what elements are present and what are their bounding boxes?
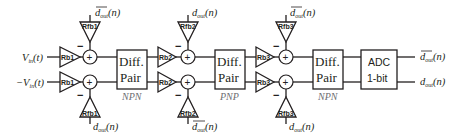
input-top-label: Vin(t) — [22, 52, 44, 64]
feedback-label-rfb3-bottom: Rfb3 — [278, 110, 294, 117]
feedback-signal-1-top: dout(n) — [95, 7, 121, 19]
adc-label-line1: ADC — [368, 56, 391, 68]
gain-label-rb3-bottom: Rb3 — [257, 79, 270, 86]
feedback-signal-2-bottom: dout(n) — [192, 121, 218, 133]
transistor-type-2: PNP — [219, 91, 239, 102]
feedback-label-rfb2-bottom: Rfb2 — [180, 110, 196, 117]
output-bottom-label: dout(n) — [420, 76, 446, 88]
feedback-signal-1-bottom: dout(n) — [93, 121, 119, 133]
minus-sign: − — [175, 40, 181, 52]
gain-label-rb2-bottom: Rb2 — [159, 79, 172, 86]
minus-sign: − — [175, 89, 181, 101]
minus-sign: − — [77, 89, 83, 101]
stage-1: Rb1 Rb1 + − + − Rfb1 dout(n) Rfb1 dout(n… — [60, 7, 158, 133]
diff-pair-1-label-line1: Diff. — [119, 54, 144, 69]
input-bottom-label: −Vin(t) — [16, 77, 45, 89]
stage-3: Rb3 Rb3 + − + − Rfb3 dout(n) Rfb3 dout(n… — [256, 7, 361, 133]
diff-pair-2-label-line1: Diff. — [217, 54, 242, 69]
feedback-label-rfb1-top: Rfb1 — [82, 23, 98, 30]
block-diagram: Vin(t) −Vin(t) Rb1 Rb1 + − + − Rfb1 dout… — [0, 0, 463, 139]
diagram-svg: Vin(t) −Vin(t) Rb1 Rb1 + − + − Rfb1 dout… — [0, 0, 463, 139]
plus-sign: + — [185, 52, 191, 63]
svg-text:dout(n): dout(n) — [420, 76, 446, 88]
diff-pair-2-label-line2: Pair — [218, 70, 240, 85]
feedback-label-rfb1-bottom: Rfb1 — [82, 110, 98, 117]
gain-label-rb2-top: Rb2 — [159, 54, 172, 61]
svg-text:dout(n): dout(n) — [192, 121, 218, 133]
svg-text:dout(n): dout(n) — [93, 121, 119, 133]
minus-sign: − — [273, 40, 279, 52]
plus-sign: + — [283, 52, 289, 63]
gain-label-rb1-bottom: Rb1 — [61, 79, 74, 86]
plus-sign: + — [87, 77, 93, 88]
feedback-label-rfb2-top: Rfb2 — [180, 23, 196, 30]
svg-text:dout(n): dout(n) — [95, 7, 121, 19]
minus-sign: − — [77, 40, 83, 52]
plus-sign: + — [185, 77, 191, 88]
feedback-signal-2-top: dout(n) — [192, 7, 218, 19]
minus-sign: − — [273, 89, 279, 101]
gain-label-rb1-top: Rb1 — [61, 54, 74, 61]
transistor-type-3: NPN — [317, 91, 339, 102]
plus-sign: + — [87, 52, 93, 63]
svg-text:dout(n): dout(n) — [420, 51, 446, 63]
diff-pair-3-label-line1: Diff. — [315, 54, 340, 69]
stage-2: Rb2 Rb2 + − + − Rfb2 dout(n) Rfb2 dout(n… — [158, 7, 256, 133]
diff-pair-3-label-line2: Pair — [316, 70, 338, 85]
adc-label-line2: 1-bit — [367, 72, 388, 84]
svg-text:dout(n): dout(n) — [290, 7, 316, 19]
plus-sign: + — [283, 77, 289, 88]
feedback-label-rfb3-top: Rfb3 — [278, 23, 294, 30]
svg-text:dout(n): dout(n) — [192, 7, 218, 19]
output-top-label: dout(n) — [420, 51, 446, 63]
diff-pair-1-label-line2: Pair — [120, 70, 142, 85]
feedback-signal-3-top: dout(n) — [290, 7, 316, 19]
svg-text:dout(n): dout(n) — [289, 121, 315, 133]
transistor-type-1: NPN — [121, 91, 143, 102]
gain-label-rb3-top: Rb3 — [257, 54, 270, 61]
feedback-signal-3-bottom: dout(n) — [289, 121, 315, 133]
